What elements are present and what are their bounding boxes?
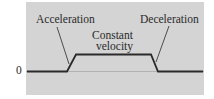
acceleration-label: Acceleration — [36, 13, 95, 25]
deceleration-label: Deceleration — [140, 13, 199, 25]
velocity-profile-line — [27, 55, 203, 72]
zero-axis-label: 0 — [16, 64, 22, 76]
acceleration-leader-line — [57, 27, 69, 64]
deceleration-leader-line — [156, 26, 169, 62]
constant-velocity-label-line2: velocity — [96, 40, 133, 52]
